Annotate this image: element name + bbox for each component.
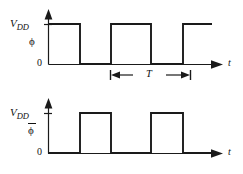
period-label: T bbox=[146, 69, 152, 80]
phibar-zero-label: 0 bbox=[37, 147, 42, 157]
phi-vdd-subscript: DD bbox=[17, 22, 29, 32]
phi-zero-label: 0 bbox=[37, 58, 42, 68]
phibar-signal-glyph: ϕ bbox=[28, 124, 34, 136]
period-left-arrowhead bbox=[111, 72, 120, 79]
phi-signal-label: ϕ bbox=[29, 36, 35, 47]
phibar-vdd-symbol: V bbox=[10, 106, 17, 118]
phibar-vdd-label: VDD bbox=[10, 107, 29, 121]
phi-time-axis-arrowhead bbox=[211, 60, 223, 69]
phibar-panel bbox=[44, 98, 223, 158]
phibar-vertical-axis-arrowhead bbox=[45, 98, 53, 109]
phi-vdd-symbol: V bbox=[10, 17, 17, 29]
phi-vertical-axis-arrowhead bbox=[45, 9, 53, 20]
phi-time-axis-label: t bbox=[228, 58, 231, 68]
phibar-signal-label: ϕ bbox=[28, 123, 36, 136]
phi-vdd-label: VDD bbox=[10, 18, 29, 32]
phi-panel bbox=[44, 9, 223, 69]
phi-waveform bbox=[48, 24, 212, 64]
phibar-time-axis-label: t bbox=[228, 147, 231, 157]
period-right-arrowhead bbox=[181, 72, 190, 79]
waveform-figure: VDD ϕ 0 t T VDD ϕ 0 t bbox=[0, 0, 243, 174]
phibar-vdd-subscript: DD bbox=[17, 111, 29, 121]
phibar-waveform bbox=[48, 113, 218, 153]
